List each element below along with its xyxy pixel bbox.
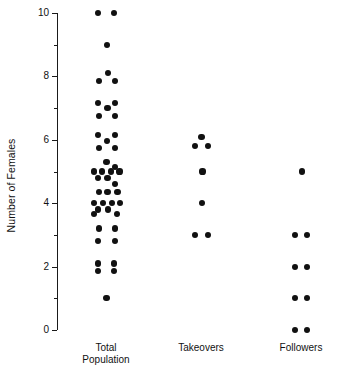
data-point-dot [104,175,110,181]
y-tick-label: 6 [43,135,49,145]
y-tick-minor [54,108,57,109]
dot-plot-chart: Number of Females 0246810 Total Populati… [0,0,338,371]
data-point-dot [112,145,118,151]
data-point-dot [304,295,310,301]
data-point-dot [304,327,310,333]
y-tick-major [52,330,57,331]
y-tick-major [52,140,57,141]
data-point-dot [103,159,109,165]
data-point-dot [95,100,101,106]
data-point-dot [108,168,114,174]
data-point-dot [192,143,198,149]
data-point-dot [205,143,211,149]
y-tick-minor [54,298,57,299]
data-point-dot [112,225,118,231]
y-tick-label: 2 [43,262,49,272]
data-point-dot [95,132,101,138]
data-point-dot [96,78,102,84]
data-point-dot [192,232,198,238]
data-point-dot [112,132,118,138]
y-tick-label: 4 [43,198,49,208]
y-tick-major [52,76,57,77]
data-point-dot [112,181,118,187]
data-point-dot [205,232,211,238]
y-tick-label: 8 [43,71,49,81]
data-point-dot [95,10,101,16]
x-category-label-3: Followers [251,342,338,354]
data-point-dot [96,113,102,119]
data-point-dot [103,295,109,301]
data-point-dot [199,168,205,174]
y-tick-label: 10 [38,8,49,18]
y-tick-major [52,203,57,204]
data-point-dot [114,189,120,195]
data-point-dot [95,260,101,266]
y-tick-minor [54,235,57,236]
data-point-dot [104,42,110,48]
data-point-dot [299,168,305,174]
y-axis-title: Number of Females [0,0,22,371]
data-point-dot [91,200,97,206]
y-tick-major [52,267,57,268]
data-point-dot [96,145,102,151]
data-point-dot [114,211,120,217]
data-point-dot [112,100,118,106]
y-tick-label: 0 [43,325,49,335]
data-point-dot [96,225,102,231]
data-point-dot [104,105,110,111]
data-point-dot [199,200,205,206]
data-point-dot [112,238,118,244]
data-point-dot [116,168,122,174]
data-point-dot [91,211,97,217]
data-point-dot [198,134,204,140]
data-point-dot [292,264,298,270]
data-point-dot [304,264,310,270]
data-point-dot [112,78,118,84]
data-point-dot [100,200,106,206]
data-point-dot [111,260,117,266]
data-point-dot [292,232,298,238]
y-axis-line [57,13,58,330]
data-point-dot [91,168,97,174]
y-tick-minor [54,45,57,46]
data-point-dot [105,206,111,212]
data-point-dot [105,70,111,76]
data-point-dot [111,268,117,274]
x-category-label-2: Takeovers [151,342,251,354]
y-tick-major [52,13,57,14]
data-point-dot [95,175,101,181]
data-point-dot [292,327,298,333]
data-point-dot [95,268,101,274]
data-point-dot [95,238,101,244]
data-point-dot [117,200,123,206]
data-point-dot [304,232,310,238]
data-point-dot [104,189,110,195]
data-point-dot [99,168,105,174]
data-point-dot [112,113,118,119]
y-tick-minor [54,172,57,173]
x-category-label-1: Total Population [56,342,156,365]
data-point-dot [104,138,110,144]
data-point-dot [111,10,117,16]
data-point-dot [292,295,298,301]
data-point-dot [109,200,115,206]
data-point-dot [96,189,102,195]
